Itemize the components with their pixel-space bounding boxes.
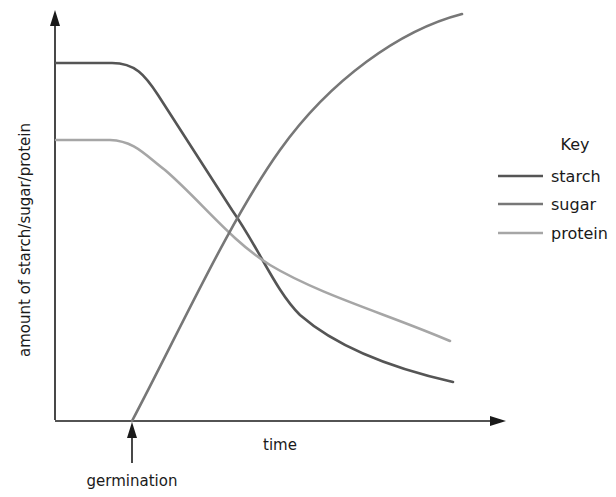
y-axis-arrow-icon bbox=[50, 10, 60, 26]
x-axis-arrow-icon bbox=[490, 416, 506, 426]
legend-label-starch: starch bbox=[551, 167, 601, 186]
legend-label-protein: protein bbox=[551, 224, 608, 243]
y-axis-label: amount of starch/sugar/protein bbox=[16, 123, 34, 357]
legend-label-sugar: sugar bbox=[551, 195, 596, 214]
x-axis-label: time bbox=[263, 436, 297, 454]
germination-arrow-icon bbox=[127, 422, 137, 438]
legend-title: Key bbox=[560, 135, 589, 154]
series-sugar-line bbox=[132, 14, 462, 421]
series-starch-line bbox=[56, 63, 453, 382]
series-protein-line bbox=[56, 140, 450, 341]
legend: Key starch sugar protein bbox=[498, 135, 608, 243]
germination-label: germination bbox=[87, 472, 178, 490]
chart: time germination amount of starch/sugar/… bbox=[0, 0, 616, 497]
